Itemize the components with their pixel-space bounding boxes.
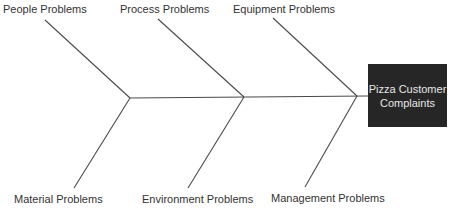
effect-box: Pizza Customer Complaints <box>368 64 447 127</box>
bone-material <box>74 98 130 188</box>
category-label-environment: Environment Problems <box>142 193 253 206</box>
bone-people <box>45 20 130 98</box>
spine <box>130 96 368 98</box>
bone-equipment <box>273 18 357 96</box>
category-label-equipment: Equipment Problems <box>233 3 335 16</box>
bone-management <box>305 96 357 187</box>
bone-process <box>158 19 244 97</box>
category-label-process: Process Problems <box>120 3 209 16</box>
effect-label: Pizza Customer Complaints <box>369 82 447 110</box>
category-label-material: Material Problems <box>14 193 103 206</box>
bone-environment <box>188 97 244 188</box>
category-label-management: Management Problems <box>271 192 385 205</box>
category-label-people: People Problems <box>3 3 87 16</box>
